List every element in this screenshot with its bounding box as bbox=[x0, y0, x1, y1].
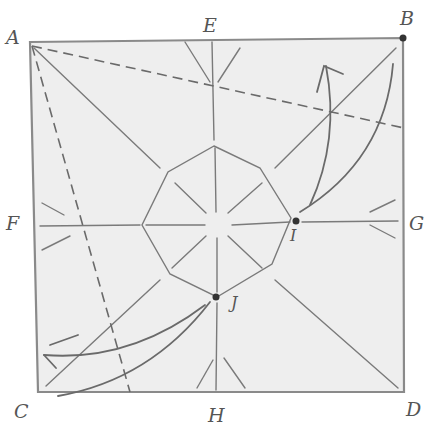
label-c: C bbox=[14, 402, 29, 421]
vertical-bottom bbox=[216, 303, 217, 390]
label-h: H bbox=[208, 406, 225, 425]
label-j: J bbox=[231, 295, 237, 311]
vertical-inner-top bbox=[215, 148, 216, 212]
corner-b-dot bbox=[400, 35, 407, 42]
label-b: B bbox=[400, 9, 414, 28]
point-j-dot bbox=[213, 294, 220, 301]
point-i-dot bbox=[293, 218, 300, 225]
label-g: G bbox=[409, 214, 424, 233]
label-e: E bbox=[203, 16, 217, 35]
horizontal-right bbox=[302, 221, 398, 222]
label-i: I bbox=[290, 228, 296, 244]
label-d: D bbox=[406, 400, 421, 419]
label-f: F bbox=[6, 214, 19, 233]
horizontal-left bbox=[40, 225, 140, 226]
label-a: A bbox=[6, 28, 20, 47]
